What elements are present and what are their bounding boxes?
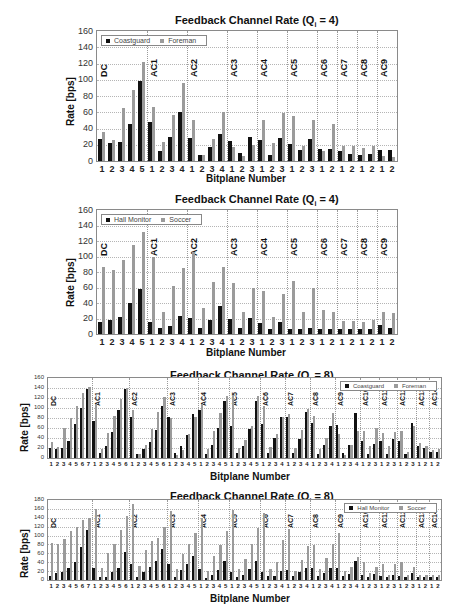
bar-foreman	[276, 434, 278, 458]
bar-foreman	[145, 445, 147, 458]
bar-foreman	[57, 447, 59, 458]
bar-foreman	[363, 431, 365, 458]
bar-soccer	[352, 321, 356, 334]
y-tick-label: 40	[69, 298, 93, 308]
bar-soccer	[219, 545, 221, 580]
bar-soccer	[51, 543, 53, 580]
bar-foreman	[222, 112, 226, 161]
bar-foreman	[262, 120, 266, 161]
bar-soccer	[252, 288, 256, 335]
x-tick-label: 2	[387, 337, 397, 347]
x-axis-label: Bitplane Number	[200, 593, 300, 604]
bar-foreman	[88, 387, 90, 459]
bar-foreman	[325, 438, 327, 458]
group-label: DC	[99, 64, 109, 77]
chart-panel-1: Feedback Channel Rate (Qi = 4) Rate [bps…	[0, 0, 458, 185]
legend: Hall MonitorSoccer	[101, 214, 202, 225]
bar-foreman	[138, 454, 140, 458]
y-tick-label: 40	[69, 123, 93, 133]
x-tick-label: 1	[97, 164, 107, 174]
chart-panel-4: Feedback Channel Rate (Qi = 8) Rate [bps…	[0, 480, 458, 613]
bar-soccer	[226, 531, 228, 580]
legend: CoastguardForeman	[101, 35, 207, 46]
x-tick-label: 1	[337, 164, 347, 174]
title-tail: = 4)	[316, 14, 338, 26]
bar-soccer	[242, 312, 246, 334]
bar-soccer	[222, 267, 226, 334]
legend-label: Soccer	[169, 216, 191, 223]
x-tick-label: 2	[435, 461, 441, 467]
group-label: AC9	[379, 59, 389, 77]
bar-foreman	[438, 449, 440, 458]
bar-foreman	[82, 393, 84, 459]
group-label: AC8	[312, 514, 319, 528]
bar-soccer	[294, 571, 296, 580]
bar-foreman	[112, 140, 116, 161]
x-tick-label: 1	[317, 164, 327, 174]
group-separator	[287, 210, 288, 334]
y-tick-label: 20	[69, 313, 93, 323]
y-tick-label: 0	[20, 576, 44, 582]
legend-swatch	[161, 218, 165, 222]
bar-foreman	[302, 146, 306, 161]
bar-soccer	[120, 530, 122, 580]
group-label: AC8	[312, 392, 319, 406]
bar-foreman	[182, 450, 184, 458]
y-tick-label: 120	[69, 58, 93, 68]
bar-soccer	[207, 571, 209, 580]
bar-soccer	[332, 544, 334, 580]
bar-soccer	[322, 310, 326, 334]
bar-foreman	[425, 446, 427, 459]
x-tick-label: 2	[327, 164, 337, 174]
gridline-horizontal	[97, 226, 397, 227]
legend-label: Soccer	[407, 505, 426, 511]
bar-foreman	[382, 433, 384, 458]
y-tick-label: 120	[69, 236, 93, 246]
bar-foreman	[269, 447, 271, 458]
bar-soccer	[102, 267, 106, 334]
bar-foreman	[307, 409, 309, 458]
x-tick-label: 2	[157, 337, 167, 347]
y-tick-label: 80	[20, 414, 44, 420]
bar-soccer	[95, 509, 97, 580]
bar-foreman	[313, 416, 315, 458]
bar-soccer	[257, 528, 259, 580]
plot-area: 020406080100120140160180DCAC1AC2AC3AC4AC…	[47, 499, 442, 581]
x-tick-label: 3	[307, 337, 317, 347]
bar-foreman	[51, 442, 53, 459]
group-label: AC1	[149, 238, 159, 256]
bar-soccer	[282, 294, 286, 334]
bar-soccer	[163, 527, 165, 580]
legend: Hall MonitorSoccer	[344, 503, 437, 513]
bar-soccer	[138, 566, 140, 580]
bar-foreman	[432, 450, 434, 459]
bar-foreman	[319, 449, 321, 459]
group-separator	[229, 500, 230, 580]
bar-foreman	[122, 108, 126, 161]
x-tick-label: 3	[247, 337, 257, 347]
bar-soccer	[363, 562, 365, 580]
plot-area: 020406080100120140160DCAC1AC2AC3AC4AC5AC…	[96, 30, 398, 162]
bar-foreman	[152, 107, 156, 161]
bar-foreman	[344, 455, 346, 458]
x-tick-label: 1	[227, 337, 237, 347]
bar-foreman	[382, 156, 386, 161]
bar-foreman	[213, 431, 215, 458]
bar-soccer	[212, 282, 216, 334]
bar-soccer	[382, 312, 386, 334]
bar-soccer	[325, 558, 327, 580]
group-label: AC7	[339, 238, 349, 256]
bar-foreman	[312, 120, 316, 161]
bar-soccer	[172, 286, 176, 334]
x-tick-label: 2	[157, 164, 167, 174]
group-label: AC2	[189, 59, 199, 77]
bar-foreman	[419, 443, 421, 458]
x-tick-label: 2	[297, 337, 307, 347]
bar-foreman	[120, 399, 122, 459]
x-axis-label: Bitplane Number	[196, 347, 296, 358]
group-label: AC5	[289, 59, 299, 77]
x-tick-label: 2	[435, 583, 441, 589]
chart-title: Feedback Channel Rate (Qi = 4)	[175, 14, 325, 28]
bar-foreman	[95, 404, 97, 459]
bar-foreman	[182, 83, 186, 161]
